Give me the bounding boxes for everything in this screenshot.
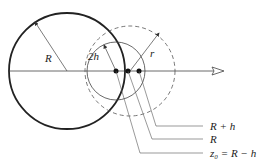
label-z0: z₀ = R − h — [209, 147, 257, 159]
diagram-canvas: R 2h r R + h R z₀ = R − h — [0, 0, 272, 163]
leader-line-z0 — [116, 71, 203, 153]
radius-2h-arrow — [104, 45, 116, 71]
leader-line-R-plus-h — [139, 71, 203, 126]
label-R-big: R — [44, 52, 52, 64]
leader-line-R — [128, 71, 203, 139]
label-R-plus-h: R + h — [209, 120, 236, 132]
label-r: r — [150, 47, 155, 59]
axis-arrowhead — [212, 67, 224, 75]
label-R-leader: R — [209, 133, 217, 145]
